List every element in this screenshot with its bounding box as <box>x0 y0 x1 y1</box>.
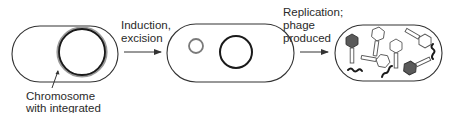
induction-label: Induction, excision <box>121 19 174 44</box>
cell-membrane <box>167 24 294 82</box>
replication-label: Replication; phage produced <box>283 6 346 44</box>
cell-lysogen <box>12 26 118 88</box>
diagram-canvas: Chromosome with integrated Induction, ex… <box>0 0 454 113</box>
chromosome-label: Chromosome with integrated <box>25 90 101 113</box>
cell-excised <box>167 24 294 82</box>
cell-lytic <box>335 25 442 81</box>
